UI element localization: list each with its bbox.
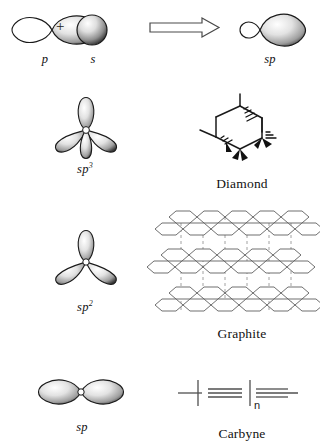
hybridization-allotropes-figure: + p s sp [0,0,320,448]
sp2-label-superscript: 2 [89,299,93,308]
sp2-orbital-diagram [48,232,128,296]
sp3-orbital-label: sp3 [62,162,108,177]
carbyne-repeat-subscript: n [254,399,260,411]
sp2-orbital-label: sp2 [62,300,108,315]
graphite-label: Graphite [200,326,284,342]
diamond-structure-diagram [188,92,292,170]
transformation-arrow-icon [148,17,222,39]
p-orbital-label: p [30,52,60,67]
sp-linear-orbital-diagram [34,372,128,412]
sp-linear-orbital-label: sp [62,420,102,435]
sp3-orbital-diagram [48,96,128,166]
sp-hybrid-orbital-diagram [238,8,310,52]
diamond-label: Diamond [202,176,282,192]
sp3-label-superscript: 3 [89,161,93,170]
carbyne-structure-diagram: n [176,378,300,412]
sp-hybrid-label: sp [250,52,290,67]
s-orbital-label: s [78,52,108,67]
sp3-label-base: sp [77,162,89,176]
plus-operator: + [56,18,64,35]
s-orbital-diagram [70,8,114,52]
graphite-structure-diagram [157,205,317,323]
sp2-label-base: sp [77,300,89,314]
carbyne-label: Carbyne [200,426,284,442]
